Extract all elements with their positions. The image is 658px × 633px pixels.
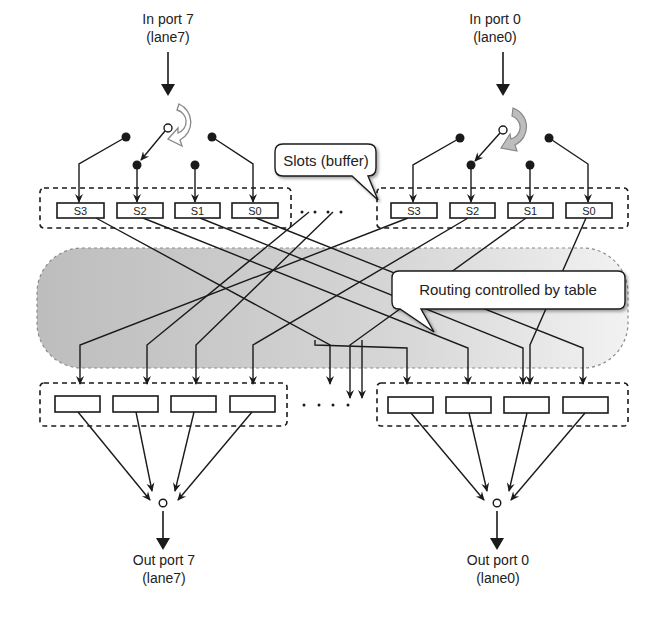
slot-label: S3 xyxy=(407,205,420,217)
output-lane-label: (lane0) xyxy=(476,570,520,586)
selector-pivot-icon xyxy=(164,124,172,132)
input-slot-right-s3: S3 xyxy=(391,203,437,218)
selector-arm xyxy=(475,133,500,161)
output-slot-left-0 xyxy=(230,396,275,412)
input-lane-label: (lane0) xyxy=(473,29,517,45)
output-slot-left-3 xyxy=(55,396,100,412)
output-slot-left-1 xyxy=(171,396,216,412)
output-slot-right-0 xyxy=(563,397,608,413)
input-lane-label: (lane7) xyxy=(146,29,190,45)
input-slot-left-s3: S3 xyxy=(57,203,104,218)
input-slot-right-s1: S1 xyxy=(508,203,553,218)
input-slots-left: S3 S2 S1 S0 xyxy=(57,203,278,218)
crossbar-diagram: S3 S2 S1 S0 S3 S2 S1 S0 xyxy=(0,0,658,633)
slot-label: S2 xyxy=(466,205,479,217)
output-slot-right-3 xyxy=(388,397,433,413)
slot-label: S1 xyxy=(191,205,204,217)
merge-point-icon xyxy=(159,499,167,507)
input-port-0: In port 0 (lane0) xyxy=(413,11,588,202)
callout-routing-text: Routing controlled by table xyxy=(419,281,597,298)
output-port-label: Out port 7 xyxy=(133,552,195,568)
slot-label: S1 xyxy=(524,205,537,217)
input-slot-right-s2: S2 xyxy=(450,203,495,218)
output-slot-right-2 xyxy=(446,397,491,413)
merge-point-icon xyxy=(493,499,501,507)
output-port-7: Out port 7 (lane7) xyxy=(78,412,252,586)
callout-slots-text: Slots (buffer) xyxy=(283,152,369,169)
output-port-label: Out port 0 xyxy=(467,552,529,568)
input-slot-left-s1: S1 xyxy=(175,203,220,218)
input-slot-right-s0: S0 xyxy=(566,203,612,218)
input-port-label: In port 0 xyxy=(469,11,521,27)
input-slots-right: S3 S2 S1 S0 xyxy=(391,203,612,218)
output-slot-right-1 xyxy=(504,397,549,413)
selector-arm xyxy=(141,131,165,160)
slot-label: S2 xyxy=(133,205,146,217)
input-slot-left-s2: S2 xyxy=(117,203,163,218)
slot-label: S0 xyxy=(582,205,595,217)
input-slot-left-s0: S0 xyxy=(232,203,278,218)
slot-label: S0 xyxy=(248,205,261,217)
ellipsis-bottom xyxy=(303,404,350,407)
output-slots-right xyxy=(388,397,608,413)
selector-pivot-icon xyxy=(499,126,507,134)
output-slots-left xyxy=(55,396,275,412)
input-port-7: In port 7 (lane7) xyxy=(79,11,253,202)
output-port-0: Out port 0 (lane0) xyxy=(411,413,585,586)
input-port-label: In port 7 xyxy=(142,11,194,27)
output-lane-label: (lane7) xyxy=(142,570,186,586)
slot-label: S3 xyxy=(74,205,87,217)
output-slot-left-2 xyxy=(113,396,158,412)
